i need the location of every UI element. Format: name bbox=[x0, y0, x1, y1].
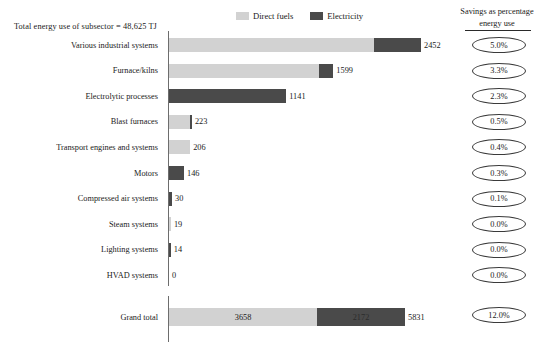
grand-total-savings-badge: 12.0% bbox=[472, 307, 526, 323]
legend-swatch-direct-fuels-icon bbox=[236, 12, 249, 20]
legend-swatch-electricity-icon bbox=[310, 12, 323, 20]
bar-segment-electricity bbox=[169, 89, 286, 103]
table-row: Steam systems19 bbox=[0, 215, 554, 233]
bar-segment-direct-fuels bbox=[169, 115, 190, 129]
row-label: Compressed air systems bbox=[0, 190, 163, 208]
bar-value-label: 146 bbox=[184, 164, 199, 182]
stacked-bar bbox=[169, 166, 184, 180]
savings-badge: 0.1% bbox=[472, 191, 526, 207]
row-label: Steam systems bbox=[0, 215, 163, 233]
grand-total-value: 5831 bbox=[405, 306, 425, 328]
bar-segment-direct-fuels bbox=[169, 140, 190, 154]
savings-header-rule bbox=[465, 30, 531, 31]
bar-value-label: 0 bbox=[169, 266, 176, 284]
row-label: Transport engines and systems bbox=[0, 138, 163, 156]
table-row: Lighting systems14 bbox=[0, 241, 554, 259]
savings-badge: 5.0% bbox=[472, 37, 526, 53]
bar-segment-direct-fuels bbox=[169, 64, 319, 78]
row-label: Motors bbox=[0, 164, 163, 182]
legend-label-electricity: Electricity bbox=[327, 11, 363, 21]
table-row: Compressed air systems30 bbox=[0, 190, 554, 208]
grand-total-label: Grand total bbox=[0, 306, 163, 328]
savings-column-header: Savings as percentage energy use bbox=[443, 6, 551, 29]
bar-value-label: 19 bbox=[171, 215, 182, 233]
row-label: Various industrial systems bbox=[0, 36, 163, 54]
bar-value-label: 206 bbox=[190, 138, 205, 156]
bar-segment-direct-fuels bbox=[169, 38, 374, 52]
bar-value-label: 2452 bbox=[421, 36, 441, 54]
legend-entry-direct-fuels: Direct fuels bbox=[236, 11, 293, 21]
savings-badge: 0.3% bbox=[472, 165, 526, 181]
bar-value-label: 30 bbox=[172, 190, 183, 208]
row-label: Electrolytic processes bbox=[0, 87, 163, 105]
table-row: Blast furnaces223 bbox=[0, 113, 554, 131]
table-row: Furnace/kilns1599 bbox=[0, 62, 554, 80]
savings-badge: 0.0% bbox=[472, 242, 526, 258]
grand-total-bar: 36582172 bbox=[169, 308, 405, 326]
table-row: Electrolytic processes1141 bbox=[0, 87, 554, 105]
table-row: Motors146 bbox=[0, 164, 554, 182]
savings-header-line2: energy use bbox=[443, 18, 551, 30]
subsector-total-label: Total energy use of subsector = 48,625 T… bbox=[14, 22, 157, 31]
stacked-bar bbox=[169, 140, 190, 154]
bar-value-label: 14 bbox=[171, 241, 182, 259]
bar-segment-electricity bbox=[169, 166, 184, 180]
savings-badge: 0.5% bbox=[472, 114, 526, 130]
stacked-bar bbox=[169, 64, 333, 78]
row-label: Blast furnaces bbox=[0, 113, 163, 131]
row-label: Furnace/kilns bbox=[0, 62, 163, 80]
legend-entry-electricity: Electricity bbox=[310, 11, 363, 21]
table-row: Various industrial systems2452 bbox=[0, 36, 554, 54]
savings-header-line1: Savings as percentage bbox=[443, 6, 551, 18]
row-label: HVAD systems bbox=[0, 266, 163, 284]
table-row: Transport engines and systems206 bbox=[0, 138, 554, 156]
bar-value-label: 1599 bbox=[333, 62, 353, 80]
bar-segment-electricity bbox=[374, 38, 421, 52]
chart-root: Total energy use of subsector = 48,625 T… bbox=[0, 0, 554, 351]
grand-total-segment-electricity: 2172 bbox=[317, 308, 405, 326]
savings-badge: 3.3% bbox=[472, 63, 526, 79]
bar-segment-electricity bbox=[319, 64, 333, 78]
chart-legend: Direct fuels Electricity bbox=[236, 11, 363, 21]
legend-label-direct-fuels: Direct fuels bbox=[253, 11, 293, 21]
grand-total-row: Grand total 36582172 5831 bbox=[0, 306, 554, 328]
bar-value-label: 1141 bbox=[286, 87, 305, 105]
table-row: HVAD systems0 bbox=[0, 266, 554, 284]
grand-total-segment-direct-fuels: 3658 bbox=[169, 308, 317, 326]
bar-value-label: 223 bbox=[192, 113, 207, 131]
stacked-bar bbox=[169, 38, 421, 52]
row-label: Lighting systems bbox=[0, 241, 163, 259]
stacked-bar bbox=[169, 115, 192, 129]
stacked-bar bbox=[169, 89, 286, 103]
